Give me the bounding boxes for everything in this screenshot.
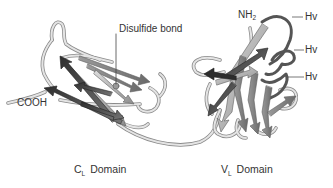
vl-domain-label: VL Domain	[221, 164, 273, 175]
vl-domain-text: Domain	[237, 163, 273, 175]
nh2-main: NH	[238, 9, 252, 20]
vl-domain-letter: V	[221, 163, 228, 175]
vl-domain-sub: L	[228, 170, 232, 177]
cl-domain-ribbon	[8, 22, 220, 145]
disulfide-bond-label: Disulfide bond	[119, 24, 182, 34]
nh2-label: NH2	[238, 10, 256, 22]
hv-label-1: Hv	[305, 12, 317, 22]
hv-label-2: Hv	[305, 45, 317, 55]
cl-domain-text: Domain	[90, 163, 126, 175]
cooh-label: COOH	[17, 98, 47, 108]
cl-domain-sub: L	[82, 170, 86, 177]
antibody-light-chain-diagram: Disulfide bond COOH NH2 Hv Hv Hv CL Doma…	[0, 0, 333, 188]
nh2-sub: 2	[252, 14, 256, 21]
vl-domain-ribbon	[193, 17, 296, 138]
hv-label-3: Hv	[305, 72, 317, 82]
cl-domain-letter: C	[74, 163, 82, 175]
cl-domain-label: CL Domain	[74, 164, 126, 175]
